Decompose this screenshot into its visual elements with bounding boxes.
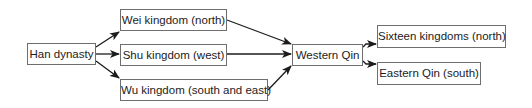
node-label: Wu kingdom (south and east) [121,84,271,96]
node-label: Wei kingdom (north) [122,14,225,26]
node-label: Eastern Qin (south) [379,67,479,79]
dynasty-flow-diagram: Han dynasty Wei kingdom (north) Shu king… [0,0,532,108]
node-eastern-qin: Eastern Qin (south) [377,62,481,85]
node-wu-kingdom: Wu kingdom (south and east) [120,79,268,101]
node-han-dynasty: Han dynasty [27,43,96,65]
arrow-han-to-wu [96,61,119,78]
arrow-wei-to-western-qin [227,20,291,44]
node-sixteen-kingdoms: Sixteen kingdoms (north) [377,25,506,48]
arrow-western-qin-to-eastern-qin [363,61,376,64]
node-wei-kingdom: Wei kingdom (north) [120,9,227,31]
node-label: Han dynasty [30,48,94,60]
node-label: Western Qin [296,49,360,61]
node-western-qin: Western Qin [292,44,363,66]
node-label: Sixteen kingdoms (north) [378,30,506,42]
arrow-western-qin-to-sixteen [363,44,376,47]
node-label: Shu kingdom (west) [123,49,225,61]
arrow-han-to-wei [96,32,119,47]
node-shu-kingdom: Shu kingdom (west) [120,44,227,66]
arrow-wu-to-western-qin [268,66,291,90]
